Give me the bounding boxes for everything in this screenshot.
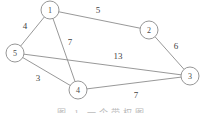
nodes-group: 12345: [6, 1, 199, 99]
edge-weight-5-3: 13: [114, 51, 124, 61]
node-3: 3: [181, 67, 199, 85]
edge-5-4: [23, 58, 70, 86]
edge-weight-4-3: 7: [134, 90, 139, 100]
edge-weight-labels-group: 54761337: [23, 5, 179, 100]
node-4: 4: [69, 81, 87, 99]
node-1: 1: [41, 1, 59, 19]
figure-caption: 图 1 一个带权图: [0, 108, 204, 113]
figure-container: 12345 54761337 图 1 一个带权图: [0, 0, 204, 113]
edges-group: [21, 12, 184, 89]
edge-weight-5-4: 3: [36, 73, 41, 83]
node-5: 5: [6, 44, 24, 62]
edge-weight-2-3: 6: [174, 41, 179, 51]
node-label-3: 3: [188, 72, 192, 81]
edge-weight-1-4: 7: [68, 37, 73, 47]
edge-weight-1-2: 5: [96, 5, 101, 15]
node-label-1: 1: [48, 6, 52, 15]
node-2: 2: [140, 21, 158, 39]
edge-2-3: [155, 37, 184, 70]
edge-4-3: [87, 77, 181, 89]
node-label-5: 5: [13, 49, 17, 58]
graph-diagram: 12345 54761337: [0, 0, 204, 113]
edge-1-4: [53, 18, 75, 81]
edge-weight-1-5: 4: [23, 21, 28, 31]
node-label-4: 4: [76, 86, 80, 95]
node-label-2: 2: [147, 26, 151, 35]
